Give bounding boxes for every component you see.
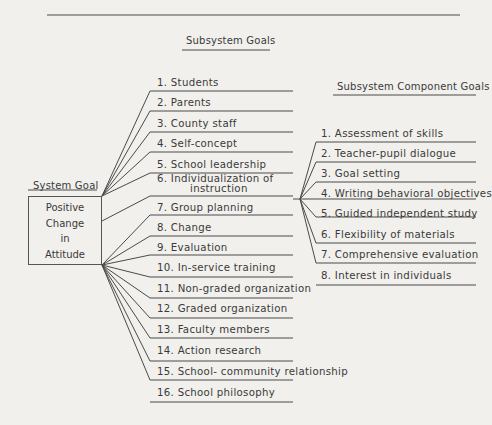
component-goal-item: 3. Goal setting xyxy=(321,168,400,179)
subsystem-goal-item: 4. Self-concept xyxy=(157,138,237,149)
component-goal-item: 1. Assessment of skills xyxy=(321,128,443,139)
subsystem-goal-item: 2. Parents xyxy=(157,97,211,108)
subsystem-goal-item: 5. School leadership xyxy=(157,159,266,170)
subsystem-goal-item: 1. Students xyxy=(157,77,219,88)
subsystem-goal-item: 11. Non-graded organization xyxy=(157,283,311,294)
subsystem-goal-item-cont: instruction xyxy=(190,183,248,194)
subsystem-goal-item: 8. Change xyxy=(157,222,212,233)
subsystem-goal-item: 15. School- community relationship xyxy=(157,366,348,377)
subsystem-goal-item: 9. Evaluation xyxy=(157,242,228,253)
system-goal-line: Change xyxy=(29,216,101,232)
subsystem-goal-item: 16. School philosophy xyxy=(157,387,275,398)
component-goal-item: 6. Flexibility of materials xyxy=(321,229,455,240)
subsystem-goal-item: 12. Graded organization xyxy=(157,303,287,314)
subsystem-goals-header: Subsystem Goals xyxy=(186,35,275,46)
component-goal-item: 2. Teacher-pupil dialogue xyxy=(321,148,456,159)
system-goal-line: in xyxy=(29,231,101,247)
component-goal-item: 4. Writing behavioral objectives xyxy=(321,188,492,199)
system-goal-header: System Goal xyxy=(33,180,98,191)
subsystem-goal-item: 3. County staff xyxy=(157,118,237,129)
subsystem-goal-item: 7. Group planning xyxy=(157,202,254,213)
component-goal-item: 7. Comprehensive evaluation xyxy=(321,249,478,260)
subsystem-goal-item: 13. Faculty members xyxy=(157,324,270,335)
component-goal-item: 5. Guided independent study xyxy=(321,208,478,219)
system-goal-box: Positive Change in Attitude xyxy=(28,196,102,265)
subsystem-goal-item: 10. In-service training xyxy=(157,262,276,273)
system-goal-line: Attitude xyxy=(29,247,101,263)
component-goal-item: 8. Interest in individuals xyxy=(321,270,452,281)
subsystem-component-goals-header: Subsystem Component Goals xyxy=(337,81,490,92)
subsystem-goal-item: 14. Action research xyxy=(157,345,261,356)
system-goal-line: Positive xyxy=(29,200,101,216)
